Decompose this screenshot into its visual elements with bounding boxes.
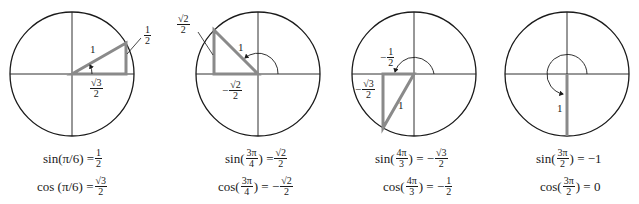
panel-3pi-2 xyxy=(505,12,629,136)
hypotenuse-label: 1 xyxy=(90,44,96,55)
angle-arc-arrow xyxy=(395,57,434,74)
sin-equation-3pi-4: sin( 3π4 ) = √22 xyxy=(225,148,288,169)
cos-equation-3pi-4: cos( 3π4 ) = − √22 xyxy=(218,176,294,197)
adjacent-label: − 12 xyxy=(380,47,395,68)
hypotenuse-label: 1 xyxy=(238,42,244,53)
panel-4pi-3 xyxy=(352,12,476,136)
cos-equation-3pi-2: cos( 3π2 ) = 0 xyxy=(540,176,600,197)
panel-pi-6 xyxy=(10,12,141,136)
adjacent-label: − √22 xyxy=(222,80,243,101)
unit-circle-diagrams xyxy=(0,0,639,204)
reference-triangle xyxy=(72,43,126,74)
cos-equation-pi-6: cos (π/6) = √32 xyxy=(37,176,108,197)
opposite-label: 12 xyxy=(143,25,152,46)
leader-line xyxy=(127,38,141,54)
sin-equation-4pi-3: sin( 4π3 ) = − √32 xyxy=(375,148,449,169)
hypotenuse-label: 1 xyxy=(398,100,404,111)
reference-triangle xyxy=(214,30,258,74)
opposite-label: − √32 xyxy=(355,79,376,100)
adjacent-label: √32 xyxy=(89,78,104,99)
cos-equation-4pi-3: cos( 4π3 ) = − 12 xyxy=(383,176,453,197)
opposite-label: √22 xyxy=(176,14,191,35)
sin-equation-3pi-2: sin( 3π2 ) = −1 xyxy=(536,148,602,169)
sin-equation-pi-6: sin(π/6) = 12 xyxy=(43,148,103,169)
angle-arc-arrow xyxy=(245,53,278,74)
hypotenuse-label: 1 xyxy=(557,103,563,114)
panel-3pi-4 xyxy=(196,12,320,136)
